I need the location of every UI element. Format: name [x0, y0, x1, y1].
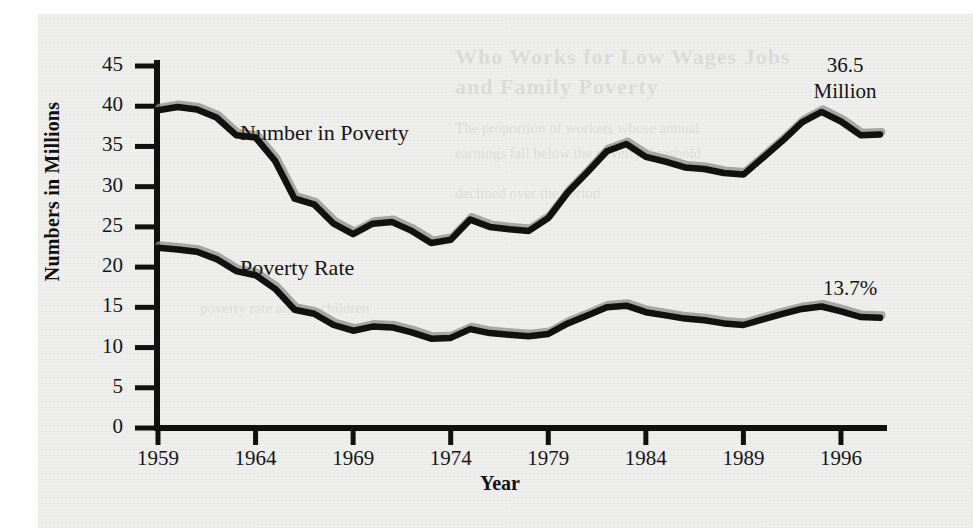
x-tick-label: 1969 [313, 446, 393, 471]
y-tick-label: 25 [89, 213, 123, 238]
x-tick-label: 1984 [606, 446, 686, 471]
y-tick-label: 5 [89, 374, 123, 399]
y-tick-label: 30 [89, 173, 123, 198]
figure-container: Who Works for Low Wages Jobs and Family … [0, 0, 973, 528]
x-tick-label: 1974 [411, 446, 491, 471]
x-tick-label: 1996 [801, 446, 881, 471]
y-tick-label: 40 [89, 92, 123, 117]
y-tick-label: 15 [89, 293, 123, 318]
series-label-number-in-poverty: Number in Poverty [240, 120, 409, 146]
callout-rate-value: 13.7% [795, 276, 905, 301]
x-tick-label: 1989 [703, 446, 783, 471]
y-tick-label: 35 [89, 132, 123, 157]
series-label-poverty-rate: Poverty Rate [240, 255, 354, 281]
callout-number-value: 36.5 [790, 53, 900, 78]
x-tick-label: 1979 [508, 446, 588, 471]
x-tick-label: 1959 [118, 446, 198, 471]
y-axis-title: Numbers in Millions [41, 82, 64, 302]
y-tick-label: 0 [89, 414, 123, 439]
y-tick-label: 10 [89, 334, 123, 359]
y-tick-label: 20 [89, 253, 123, 278]
x-axis-title: Year [440, 472, 560, 495]
y-tick-label: 45 [89, 52, 123, 77]
callout-number-units: Million [790, 79, 900, 104]
x-tick-label: 1964 [216, 446, 296, 471]
